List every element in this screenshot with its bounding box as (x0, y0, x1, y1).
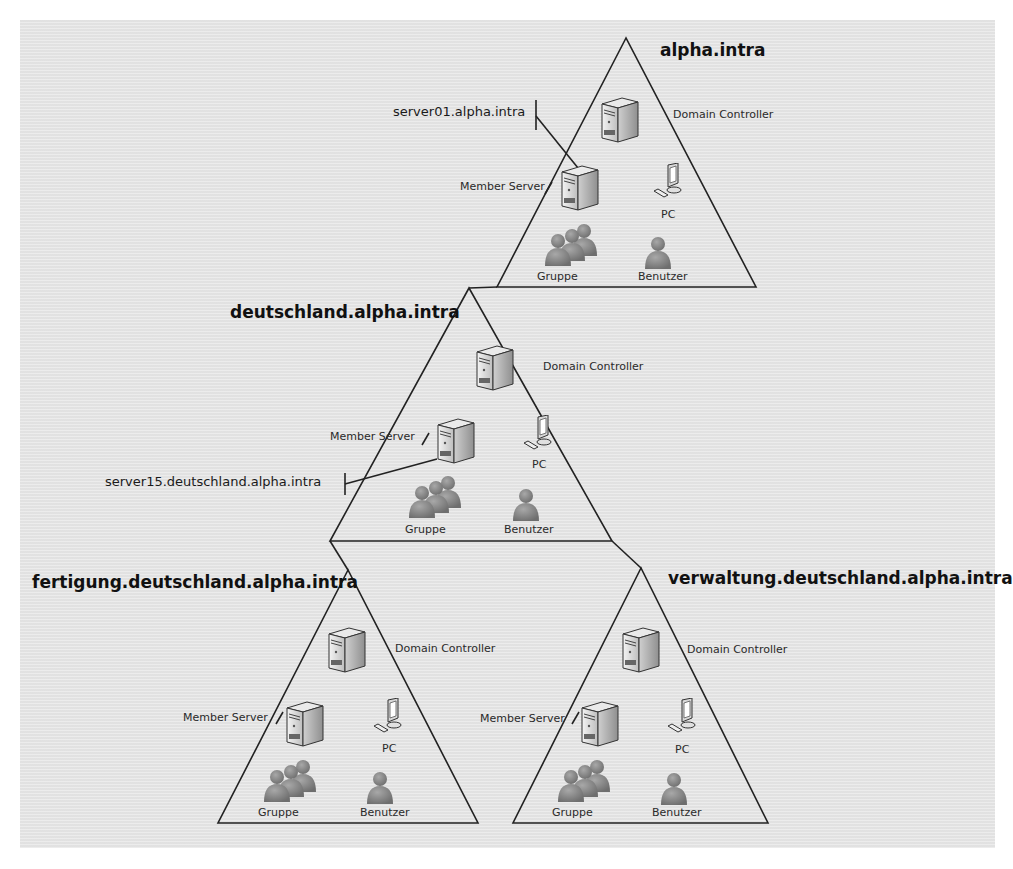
server-tower-icon (621, 622, 661, 674)
role-label-user: Benutzer (504, 523, 554, 536)
domain-triangle-verwaltung (513, 568, 768, 823)
server-tower-icon (600, 92, 640, 144)
user-group-icon (407, 474, 465, 520)
server-tower-icon (285, 696, 325, 748)
role-label-user: Benutzer (360, 806, 410, 819)
user-group-icon (262, 758, 320, 804)
role-label-domain-controller: Domain Controller (543, 360, 643, 373)
domain-title-verwaltung: verwaltung.deutschland.alpha.intra (668, 568, 1013, 588)
server-tower-icon (436, 413, 476, 465)
role-label-member-server: Member Server (460, 180, 545, 193)
role-label-pc: PC (675, 743, 689, 756)
role-label-member-server: Member Server (480, 712, 565, 725)
domain-title-fertigung: fertigung.deutschland.alpha.intra (32, 572, 358, 592)
role-label-group: Gruppe (258, 806, 299, 819)
domain-title-deutschland: deutschland.alpha.intra (230, 302, 460, 322)
role-label-group: Gruppe (405, 523, 446, 536)
desktop-pc-icon (650, 163, 686, 203)
user-group-icon (543, 222, 601, 268)
role-label-member-server: Member Server (330, 430, 415, 443)
desktop-pc-icon (664, 698, 700, 738)
domain-title-alpha: alpha.intra (660, 40, 765, 60)
role-label-group: Gruppe (537, 270, 578, 283)
single-user-icon (365, 770, 395, 806)
role-label-domain-controller: Domain Controller (687, 643, 787, 656)
single-user-icon (643, 235, 673, 271)
desktop-pc-icon (370, 698, 406, 738)
server-tower-icon (475, 340, 515, 392)
server-tower-icon (580, 696, 620, 748)
role-label-domain-controller: Domain Controller (673, 108, 773, 121)
single-user-icon (511, 487, 541, 523)
role-label-user: Benutzer (638, 270, 688, 283)
role-label-pc: PC (382, 742, 396, 755)
callout-server01: server01.alpha.intra (393, 104, 525, 119)
user-group-icon (556, 758, 614, 804)
domain-triangle-alpha (497, 38, 756, 287)
server-tower-icon (560, 160, 600, 212)
desktop-pc-icon (520, 415, 556, 455)
domain-triangle-fertigung (218, 570, 478, 823)
role-label-member-server: Member Server (183, 711, 268, 724)
role-label-user: Benutzer (652, 806, 702, 819)
role-label-domain-controller: Domain Controller (395, 642, 495, 655)
server-tower-icon (327, 622, 367, 674)
single-user-icon (659, 771, 689, 807)
role-label-pc: PC (661, 208, 675, 221)
domain-tree-lines (0, 0, 1013, 869)
role-label-group: Gruppe (552, 806, 593, 819)
callout-server15: server15.deutschland.alpha.intra (105, 474, 321, 489)
role-label-pc: PC (532, 458, 546, 471)
